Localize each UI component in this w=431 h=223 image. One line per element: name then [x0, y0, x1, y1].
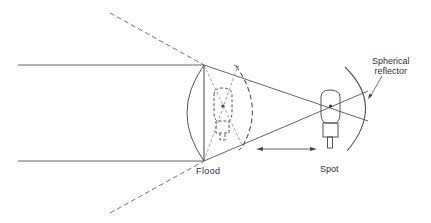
spot-label: Spot: [320, 165, 339, 174]
spot-flood-lens-diagram: [0, 0, 431, 223]
reflector-leader-line: [370, 76, 382, 97]
flood-ray-bottom: [110, 161, 204, 213]
plano-convex-lens: [187, 65, 204, 161]
ray-top-to-reflector: [204, 65, 368, 121]
spot-filament-dot: [329, 104, 332, 107]
spot-lamp: [321, 90, 340, 148]
travel-arrow: [256, 147, 317, 151]
flood-label: Flood: [196, 167, 221, 176]
flood-lamp: [214, 88, 232, 140]
spherical-reflector-label: Spherical reflector: [372, 56, 410, 76]
flood-reflector-tick-bottom: [239, 148, 241, 150]
flood-construction-ray-2: [204, 68, 237, 161]
reflector-label-line1: Spherical: [372, 56, 410, 66]
flood-ray-top: [110, 13, 204, 65]
reflector-label-line2: reflector: [372, 66, 410, 76]
spherical-reflector: [345, 67, 366, 151]
